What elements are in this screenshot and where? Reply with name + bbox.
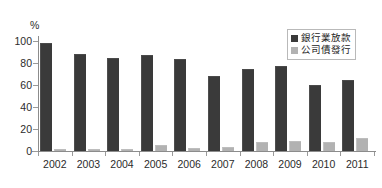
x-axis-tick-mark <box>139 152 140 156</box>
bar-bank-lending <box>141 55 153 151</box>
bar-group <box>139 38 173 151</box>
x-axis-tick-label: 2011 <box>337 159 377 170</box>
x-axis-tick-mark <box>38 152 39 156</box>
bar-bank-lending <box>107 58 119 151</box>
legend-item-corporate-bond: 公司債發行 <box>291 44 351 56</box>
y-axis-tick-labels: 020406080100 <box>4 0 32 188</box>
bar-corporate-bond <box>155 145 167 151</box>
bar-corporate-bond <box>121 149 133 151</box>
x-axis-tick-mark <box>172 152 173 156</box>
bar-group <box>206 38 240 151</box>
bar-bank-lending <box>342 80 354 151</box>
y-axis-tick-mark <box>33 107 38 108</box>
legend-swatch-icon-corporate-bond <box>291 47 298 54</box>
x-axis-tick-mark <box>206 152 207 156</box>
legend-item-bank-lending: 銀行業放款 <box>291 32 351 44</box>
legend-label-bank-lending: 銀行業放款 <box>301 33 351 43</box>
bar-group <box>172 38 206 151</box>
x-axis-tick-mark <box>105 152 106 156</box>
y-axis-tick-label: 40 <box>6 102 32 113</box>
chart-legend: 銀行業放款 公司債發行 <box>287 29 356 60</box>
bar-group <box>72 38 106 151</box>
x-axis-tick-mark <box>307 152 308 156</box>
y-axis-tick-label: 80 <box>6 58 32 69</box>
y-axis-tick-label: 60 <box>6 80 32 91</box>
y-axis-tick-mark <box>33 63 38 64</box>
y-axis-tick-label: 20 <box>6 124 32 135</box>
x-axis-tick-mark <box>340 152 341 156</box>
y-axis-tick-mark <box>33 41 38 42</box>
legend-swatch-icon-bank-lending <box>291 35 298 42</box>
x-axis-tick-mark <box>374 152 375 156</box>
chart-figure: % 020406080100 銀行業放款 公司債發行 2002200320042… <box>0 0 382 188</box>
y-axis-tick-mark <box>33 85 38 86</box>
bar-bank-lending <box>74 54 86 151</box>
bar-corporate-bond <box>188 148 200 151</box>
y-axis-tick-label: 0 <box>6 146 32 157</box>
bar-bank-lending <box>242 69 254 151</box>
bar-bank-lending <box>208 76 220 151</box>
bar-bank-lending <box>174 59 186 151</box>
y-axis-tick-mark <box>33 129 38 130</box>
bar-group <box>105 38 139 151</box>
x-axis-tick-mark <box>240 152 241 156</box>
x-axis-tick-mark <box>72 152 73 156</box>
bar-corporate-bond <box>222 147 234 151</box>
bar-bank-lending <box>40 43 52 151</box>
legend-label-corporate-bond: 公司債發行 <box>301 45 351 55</box>
bar-corporate-bond <box>256 142 268 151</box>
bar-bank-lending <box>275 66 287 151</box>
y-axis-tick-label: 100 <box>6 36 32 47</box>
bar-corporate-bond <box>323 142 335 151</box>
bar-corporate-bond <box>356 138 368 151</box>
bar-group <box>240 38 274 151</box>
bar-corporate-bond <box>88 149 100 151</box>
bar-corporate-bond <box>54 149 66 151</box>
bar-bank-lending <box>309 85 321 151</box>
x-axis-tick-mark <box>273 152 274 156</box>
bar-group <box>38 38 72 151</box>
bar-corporate-bond <box>289 141 301 151</box>
x-axis-line <box>32 151 376 152</box>
